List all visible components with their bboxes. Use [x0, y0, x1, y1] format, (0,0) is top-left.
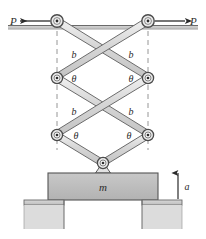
linkage-arms	[54, 18, 150, 166]
joint-mid-right	[142, 72, 153, 83]
label-theta-mid-right: θ	[129, 73, 134, 84]
joint-low-right	[142, 129, 153, 140]
floor-support-left	[24, 200, 64, 229]
joint-top-right	[142, 15, 154, 27]
ceiling-rail	[8, 25, 198, 29]
label-theta-mid-left: θ	[72, 73, 77, 84]
label-b-upper-right: b	[129, 49, 134, 60]
label-theta-low-left: θ	[74, 130, 79, 141]
floor-supports	[24, 200, 182, 229]
label-b-lower-left: b	[72, 106, 77, 117]
label-theta-low-right: θ	[127, 130, 132, 141]
joint-low-left	[51, 129, 62, 140]
pin-joints	[51, 15, 154, 141]
label-b-lower-right: b	[129, 106, 134, 117]
bottom-pivot-support	[96, 157, 111, 173]
figure-canvas: P P b b b b θ θ θ θ m a	[0, 0, 206, 239]
label-mass: m	[99, 181, 107, 193]
scissor-lift-figure: P P b b b b θ θ θ θ m a	[0, 0, 206, 239]
joint-top-left	[51, 15, 63, 27]
label-force-right: P	[189, 15, 197, 27]
label-force-left: P	[9, 15, 17, 27]
joint-mid-left	[51, 72, 62, 83]
label-b-upper-left: b	[72, 49, 77, 60]
floor-support-right	[142, 200, 182, 229]
label-acceleration: a	[185, 181, 190, 192]
